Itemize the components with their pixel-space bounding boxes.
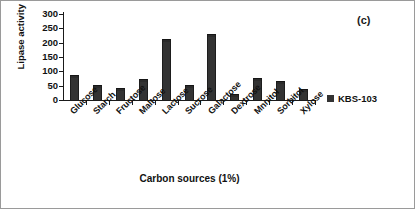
bar-cap bbox=[254, 79, 261, 81]
y-tick-mark bbox=[59, 57, 64, 58]
y-tick-label: 150 bbox=[42, 51, 58, 62]
y-tick-mark bbox=[59, 86, 64, 87]
panel-label: (c) bbox=[357, 14, 370, 26]
y-tick-mark bbox=[59, 71, 64, 72]
figure-panel-c: (c) Lipase activity (U/ml) 0501001502002… bbox=[0, 0, 415, 209]
legend: KBS-103 bbox=[327, 93, 377, 104]
y-tick-mark bbox=[59, 28, 64, 29]
bar bbox=[70, 75, 79, 100]
x-axis-title: Carbon sources (1%) bbox=[63, 173, 316, 184]
y-tick-label: 200 bbox=[42, 37, 58, 48]
y-tick-label: 0 bbox=[53, 94, 58, 105]
y-tick-label: 100 bbox=[42, 65, 58, 76]
y-tick-label: 250 bbox=[42, 22, 58, 33]
bar-cap bbox=[71, 76, 78, 78]
y-tick-mark bbox=[59, 43, 64, 44]
bar-cap bbox=[277, 82, 284, 84]
legend-swatch-icon bbox=[327, 95, 334, 102]
y-axis-title: Lipase activity (U/ml) bbox=[14, 0, 28, 82]
legend-label: KBS-103 bbox=[338, 93, 377, 104]
y-tick-label: 50 bbox=[47, 80, 58, 91]
y-tick-mark bbox=[59, 14, 64, 15]
bar-cap bbox=[208, 35, 215, 37]
y-tick-label: 300 bbox=[42, 8, 58, 19]
bar-cap bbox=[140, 80, 147, 82]
bar-cap bbox=[117, 89, 124, 91]
plot-area: 050100150200250300 bbox=[63, 14, 315, 100]
y-tick-mark bbox=[59, 100, 64, 101]
bar-cap bbox=[163, 40, 170, 42]
